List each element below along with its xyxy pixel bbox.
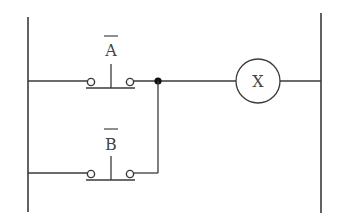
contact-a-terminal-left bbox=[87, 78, 94, 85]
contact-a: A bbox=[86, 36, 135, 88]
contact-b-terminal-right bbox=[126, 170, 133, 177]
contact-a-terminal-right bbox=[126, 78, 133, 85]
contact-b-terminal-left bbox=[87, 170, 94, 177]
contact-a-label: A bbox=[104, 41, 117, 60]
ladder-diagram: A X B bbox=[0, 0, 346, 221]
coil-label: X bbox=[252, 72, 264, 91]
contact-b: B bbox=[86, 129, 135, 180]
contact-b-label: B bbox=[105, 135, 117, 154]
coil-x: X bbox=[236, 59, 280, 103]
